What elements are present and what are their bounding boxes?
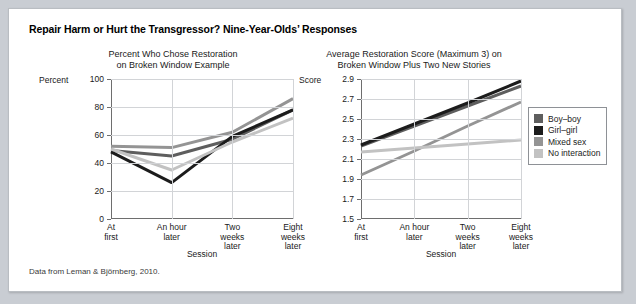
x-tick-label: Eightweekslater bbox=[495, 223, 547, 252]
y-tick-mark bbox=[357, 119, 361, 120]
figure-card: Repair Harm or Hurt the Transgressor? Ni… bbox=[8, 8, 622, 292]
y-axis-label-percent: Percent bbox=[39, 75, 68, 85]
legend-item-label: No interaction bbox=[548, 148, 600, 158]
y-tick-label: 1.7 bbox=[342, 194, 354, 204]
gridline-horizontal bbox=[361, 79, 521, 80]
y-tick-mark bbox=[357, 139, 361, 140]
y-tick-label: 2.9 bbox=[342, 74, 354, 84]
legend-color-swatch bbox=[534, 126, 543, 135]
legend-color-swatch bbox=[534, 114, 543, 123]
plot-area-score: 1.51.71.92.12.32.52.72.9 bbox=[361, 79, 521, 219]
gridline-horizontal bbox=[361, 139, 521, 140]
source-note: Data from Leman & Björnberg, 2010. bbox=[29, 267, 160, 276]
y-tick-mark bbox=[357, 219, 361, 220]
x-tick-label: An hourlater bbox=[388, 223, 440, 242]
gridline-vertical bbox=[414, 79, 415, 219]
legend-color-swatch bbox=[534, 137, 543, 146]
legend: Boy–boyGirl–girlMixed sexNo interaction bbox=[528, 107, 607, 165]
y-tick-mark bbox=[107, 219, 111, 220]
gridline-horizontal bbox=[111, 107, 293, 108]
y-tick-label: 40 bbox=[95, 158, 104, 168]
x-tick-label: An hourlater bbox=[146, 223, 198, 242]
x-axis-label-score: Session bbox=[361, 249, 521, 259]
legend-item[interactable]: Mixed sex bbox=[534, 137, 600, 147]
gridline-vertical bbox=[468, 79, 469, 219]
legend-item[interactable]: Girl–girl bbox=[534, 125, 600, 135]
y-tick-mark bbox=[107, 135, 111, 136]
y-tick-label: 2.5 bbox=[342, 114, 354, 124]
chart-subtitle-score: Average Restoration Score (Maximum 3) on… bbox=[299, 49, 529, 71]
y-tick-mark bbox=[357, 199, 361, 200]
gridline-horizontal bbox=[361, 159, 521, 160]
gridline-horizontal bbox=[361, 199, 521, 200]
page-title: Repair Harm or Hurt the Transgressor? Ni… bbox=[29, 23, 357, 35]
gridline-vertical bbox=[521, 79, 522, 219]
x-tick-label: Atfirst bbox=[85, 223, 137, 242]
y-tick-mark bbox=[107, 191, 111, 192]
chart-panel-score: Average Restoration Score (Maximum 3) on… bbox=[299, 49, 529, 259]
y-tick-mark bbox=[107, 163, 111, 164]
gridline-vertical bbox=[232, 79, 233, 219]
series-lines-score bbox=[361, 79, 521, 219]
chart-subtitle-percent: Percent Who Chose Restoration on Broken … bbox=[39, 49, 307, 71]
series-line bbox=[111, 110, 293, 156]
y-tick-label: 80 bbox=[95, 102, 104, 112]
gridline-horizontal bbox=[111, 163, 293, 164]
legend-item[interactable]: Boy–boy bbox=[534, 114, 600, 124]
plot-area-percent: 020406080100 bbox=[111, 79, 293, 219]
y-tick-mark bbox=[107, 107, 111, 108]
legend-item-label: Boy–boy bbox=[548, 114, 581, 124]
figure-page: Repair Harm or Hurt the Transgressor? Ni… bbox=[0, 0, 636, 304]
y-tick-mark bbox=[357, 159, 361, 160]
gridline-vertical bbox=[293, 79, 294, 219]
legend-item-label: Mixed sex bbox=[548, 137, 586, 147]
chart-panel-percent: Percent Who Chose Restoration on Broken … bbox=[39, 49, 307, 259]
x-tick-label: Twoweekslater bbox=[442, 223, 494, 252]
y-tick-mark bbox=[357, 79, 361, 80]
legend-color-swatch bbox=[534, 149, 543, 158]
x-tick-label: Atfirst bbox=[335, 223, 387, 242]
gridline-horizontal bbox=[111, 135, 293, 136]
legend-item-label: Girl–girl bbox=[548, 125, 577, 135]
series-lines-percent bbox=[111, 79, 293, 219]
y-tick-label: 100 bbox=[90, 74, 104, 84]
y-tick-label: 2.7 bbox=[342, 94, 354, 104]
y-tick-label: 60 bbox=[95, 130, 104, 140]
gridline-horizontal bbox=[111, 79, 293, 80]
y-tick-label: 2.1 bbox=[342, 154, 354, 164]
y-tick-mark bbox=[357, 99, 361, 100]
x-axis-label-percent: Session bbox=[111, 249, 293, 259]
y-tick-label: 20 bbox=[95, 186, 104, 196]
y-tick-label: 1.9 bbox=[342, 174, 354, 184]
y-tick-label: 2.3 bbox=[342, 134, 354, 144]
gridline-vertical bbox=[172, 79, 173, 219]
y-tick-mark bbox=[107, 79, 111, 80]
gridline-horizontal bbox=[361, 99, 521, 100]
y-axis-label-score: Score bbox=[299, 75, 321, 85]
y-tick-mark bbox=[357, 179, 361, 180]
x-tick-label: Twoweekslater bbox=[206, 223, 258, 252]
gridline-horizontal bbox=[111, 191, 293, 192]
gridline-horizontal bbox=[361, 119, 521, 120]
legend-item[interactable]: No interaction bbox=[534, 148, 600, 158]
series-line bbox=[361, 140, 521, 152]
gridline-horizontal bbox=[361, 179, 521, 180]
